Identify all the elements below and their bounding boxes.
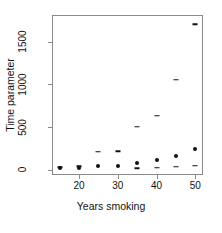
y-axis-tick <box>48 127 52 128</box>
x-axis-tick-label: 20 <box>64 180 94 193</box>
x-axis-tick-label-text: 30 <box>112 180 123 191</box>
data-point <box>135 167 140 169</box>
y-axis-tick <box>48 170 52 171</box>
data-point <box>96 164 100 168</box>
x-axis-tick-label-text: 20 <box>74 180 85 191</box>
data-point <box>173 79 178 81</box>
data-point <box>154 167 159 169</box>
y-axis-tick <box>48 84 52 85</box>
y-axis-tick <box>48 42 52 43</box>
data-point <box>135 161 139 165</box>
plot-data-area <box>52 15 203 175</box>
data-point <box>193 147 197 151</box>
data-point <box>155 158 159 162</box>
data-point <box>154 115 159 117</box>
data-point <box>96 151 101 153</box>
scatter-plot-figure: 050010001500 20304050 Time parameter Yea… <box>0 0 222 233</box>
y-axis-tick-label-text: 500 <box>17 119 28 136</box>
x-axis-tick-label: 40 <box>142 180 172 193</box>
y-axis-title-text: Time parameter <box>4 58 16 132</box>
x-axis-tick <box>157 175 158 179</box>
data-point <box>193 165 198 167</box>
y-axis-tick-label-text: 1000 <box>17 73 28 95</box>
x-axis-title: Years smoking <box>0 200 222 212</box>
data-point <box>174 154 178 158</box>
y-axis-tick-label-text: 0 <box>17 167 28 173</box>
data-point <box>115 151 120 153</box>
x-axis-tick-label: 30 <box>103 180 133 193</box>
data-point <box>193 24 198 26</box>
x-axis-tick-label-text: 40 <box>151 180 162 191</box>
x-axis-tick-label: 50 <box>180 180 210 193</box>
x-axis-tick <box>118 175 119 179</box>
data-point <box>57 167 62 169</box>
data-point <box>135 126 140 128</box>
y-axis-tick-label-text: 1500 <box>17 30 28 52</box>
x-axis-tick <box>195 175 196 179</box>
data-point <box>77 165 82 167</box>
y-axis-title: Time parameter <box>2 15 18 175</box>
x-axis-tick <box>79 175 80 179</box>
data-point <box>116 164 120 168</box>
x-axis-tick-label-text: 50 <box>190 180 201 191</box>
data-point <box>173 166 178 168</box>
